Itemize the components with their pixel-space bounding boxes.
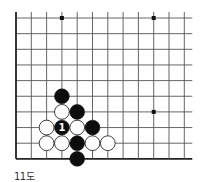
black-stone [70, 105, 85, 120]
star-point-icon [152, 110, 156, 114]
white-stone [55, 105, 70, 120]
black-stone [55, 89, 70, 104]
move-number-label: 1 [58, 122, 65, 133]
black-stone [70, 151, 85, 166]
black-stone [85, 120, 100, 135]
diagram-caption: 11도 [14, 168, 34, 182]
white-stone [100, 136, 115, 151]
black-stone [70, 136, 85, 151]
white-stone [55, 136, 70, 151]
black-stone: 1 [55, 120, 70, 135]
white-stone [39, 136, 54, 151]
white-stone [70, 120, 85, 135]
white-stone [85, 136, 100, 151]
go-board-diagram: 1 [0, 0, 202, 182]
star-point-icon [60, 16, 64, 20]
star-point-icon [152, 16, 156, 20]
white-stone [39, 120, 54, 135]
